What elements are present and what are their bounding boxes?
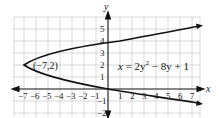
- y-tick-label: 5: [100, 25, 105, 34]
- equation-label: x = 2y2 − 8y + 1: [118, 59, 189, 72]
- y-tick-label: 1: [100, 73, 105, 82]
- x-tick-label: 2: [130, 92, 135, 101]
- y-tick-label: 4: [100, 37, 105, 46]
- x-tick-label: −3: [66, 92, 76, 101]
- x-tick-label: 3: [142, 92, 147, 101]
- equation-rest: − 8y + 1: [149, 60, 189, 72]
- equation-mid: = 2y: [123, 60, 146, 72]
- x-tick-label: −6: [30, 92, 40, 101]
- x-tick-label: 6: [178, 92, 183, 101]
- x-tick-label: 5: [166, 92, 171, 101]
- x-axis-arrow-right: [197, 87, 204, 92]
- x-axis-label: x: [206, 84, 210, 94]
- upper-branch-arrow: [196, 24, 203, 30]
- x-tick-label: 7: [190, 92, 195, 101]
- y-tick-label: 2: [100, 61, 105, 70]
- y-axis-label: y: [104, 2, 108, 12]
- x-tick-label: −5: [42, 92, 52, 101]
- x-tick-label: 1: [118, 92, 123, 101]
- x-tick-label: −7: [18, 92, 28, 101]
- x-tick-label: −2: [78, 92, 88, 101]
- y-tick-label: −1: [97, 97, 107, 106]
- y-axis-arrow-up: [106, 12, 111, 19]
- x-tick-label: 4: [154, 92, 159, 101]
- vertex-label: (−7,2): [33, 60, 58, 71]
- y-tick-label: −2: [97, 109, 107, 118]
- x-tick-label: −4: [54, 92, 64, 101]
- y-tick-label: 3: [100, 49, 105, 58]
